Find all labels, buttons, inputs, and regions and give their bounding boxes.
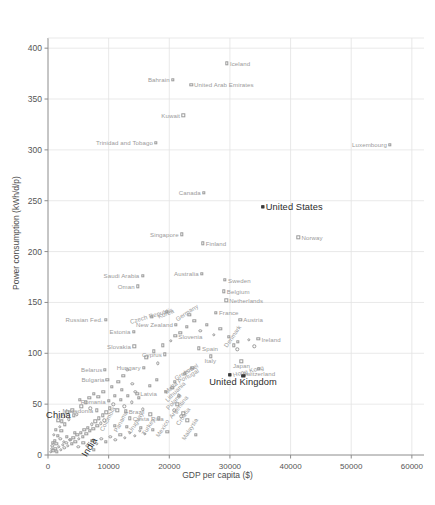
data-point-label: Kuwait bbox=[161, 112, 180, 119]
data-point-label: United Arab Emirates bbox=[194, 81, 254, 88]
data-point-marker bbox=[205, 323, 208, 326]
data-point-marker bbox=[189, 83, 192, 86]
data-point-marker bbox=[113, 394, 116, 397]
data-point-label: United States bbox=[266, 202, 323, 212]
data-point-label: Iceland bbox=[230, 60, 250, 67]
data-point-marker bbox=[54, 428, 57, 431]
data-point-marker bbox=[136, 284, 139, 287]
data-point-marker bbox=[142, 366, 145, 369]
scatter-chart: 0100002000030000400005000060000050100150… bbox=[0, 0, 435, 505]
data-point-marker bbox=[219, 327, 222, 330]
data-point-label: Russian Fed. bbox=[66, 316, 103, 323]
y-tick-label: 0 bbox=[37, 450, 42, 460]
data-point-marker bbox=[174, 323, 177, 326]
data-point-marker bbox=[155, 378, 158, 381]
data-point-marker bbox=[126, 394, 129, 397]
data-point-label: Sweden bbox=[228, 277, 251, 284]
y-tick-label: 300 bbox=[28, 145, 42, 155]
data-point-label: Slovakia bbox=[107, 343, 131, 350]
data-point-label: Belarus bbox=[81, 366, 102, 373]
data-point-marker bbox=[161, 343, 164, 346]
data-point-label: China bbox=[46, 410, 71, 420]
data-point-marker bbox=[141, 274, 144, 277]
data-point-marker bbox=[119, 398, 122, 401]
data-point-marker bbox=[60, 429, 63, 432]
data-point-marker bbox=[180, 233, 183, 236]
data-point-marker bbox=[214, 311, 217, 314]
data-point-marker bbox=[128, 417, 131, 420]
data-point-marker bbox=[151, 428, 154, 431]
data-point-label: France bbox=[219, 309, 239, 316]
y-tick-label: 350 bbox=[28, 94, 42, 104]
data-point-marker bbox=[51, 441, 54, 444]
data-point-label: Cyprus bbox=[142, 351, 162, 358]
data-point-marker bbox=[388, 143, 391, 146]
data-point-marker bbox=[257, 337, 260, 340]
data-point-marker bbox=[92, 392, 95, 395]
data-point-marker bbox=[63, 423, 66, 426]
data-point-label: Ireland bbox=[261, 336, 280, 343]
data-point-marker bbox=[228, 373, 231, 376]
data-point-marker bbox=[222, 290, 225, 293]
data-point-label: Luxembourg bbox=[352, 141, 387, 148]
data-point-label: Estonia bbox=[110, 328, 131, 335]
data-point-label: Singapore bbox=[150, 231, 179, 238]
data-point-marker bbox=[171, 78, 174, 81]
x-axis-title: GDP per capita ($) bbox=[0, 470, 435, 480]
data-point-marker bbox=[239, 318, 242, 321]
data-point-marker bbox=[192, 319, 195, 322]
data-point-marker bbox=[132, 330, 135, 333]
data-point-label: New Zealand bbox=[136, 321, 173, 328]
data-point-label: Saudi Arabia bbox=[104, 272, 140, 279]
data-point-marker bbox=[55, 442, 58, 445]
data-point-marker bbox=[92, 427, 95, 430]
data-point-label: Oman bbox=[118, 283, 135, 290]
data-point-marker bbox=[225, 62, 228, 65]
data-point-marker bbox=[107, 399, 110, 402]
data-point-marker bbox=[202, 191, 205, 194]
data-point-marker bbox=[174, 334, 177, 337]
data-point-marker bbox=[95, 409, 98, 412]
data-point-label: Austria bbox=[243, 316, 263, 323]
data-point-marker bbox=[94, 420, 97, 423]
data-point-marker bbox=[72, 414, 75, 417]
data-point-marker bbox=[85, 432, 88, 435]
data-point-label: Latvia bbox=[140, 390, 157, 397]
data-point-marker bbox=[120, 388, 123, 391]
data-point-marker bbox=[223, 278, 226, 281]
y-tick-label: 400 bbox=[28, 43, 42, 53]
data-point-label: Norway bbox=[301, 234, 322, 241]
data-point-marker bbox=[232, 343, 235, 346]
data-point-marker bbox=[225, 299, 228, 302]
data-point-marker bbox=[135, 392, 138, 395]
data-point-marker bbox=[201, 242, 204, 245]
data-point-marker bbox=[261, 205, 264, 208]
data-point-label: Slovenia bbox=[178, 333, 202, 340]
data-point-marker bbox=[79, 431, 82, 434]
data-point-label: Canada bbox=[179, 189, 201, 196]
data-point-marker bbox=[121, 374, 124, 377]
data-point-label: Australia bbox=[174, 270, 199, 277]
data-point-label: Finland bbox=[206, 240, 227, 247]
data-point-marker bbox=[297, 236, 300, 239]
data-point-marker bbox=[104, 318, 107, 321]
data-point-marker bbox=[74, 440, 77, 443]
y-tick-label: 50 bbox=[33, 399, 42, 409]
data-point-label: Bulgaria bbox=[81, 376, 104, 383]
data-point-marker bbox=[104, 440, 107, 443]
y-axis-title: Power consumption (kWh/d/p) bbox=[11, 163, 21, 303]
data-point-label: Belgium bbox=[227, 288, 250, 295]
data-point-label: Hungary bbox=[117, 364, 141, 371]
data-point-marker bbox=[118, 433, 121, 436]
data-point-marker bbox=[200, 272, 203, 275]
data-point-marker bbox=[81, 435, 84, 438]
data-point-marker bbox=[117, 380, 120, 383]
data-point-marker bbox=[154, 141, 157, 144]
data-point-marker bbox=[185, 325, 188, 328]
data-point-label: Netherlands bbox=[229, 297, 263, 304]
data-point-marker bbox=[132, 344, 135, 347]
data-point-marker bbox=[197, 347, 200, 350]
data-point-marker bbox=[72, 436, 75, 439]
data-point-marker bbox=[110, 385, 113, 388]
data-point-marker bbox=[182, 114, 185, 117]
